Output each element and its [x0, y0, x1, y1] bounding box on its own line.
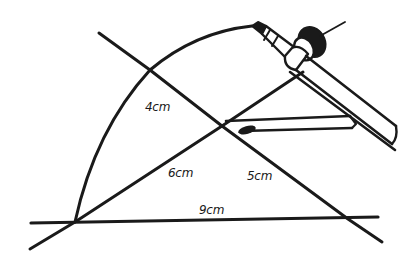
compass-second-arm-top — [226, 116, 350, 121]
label-9cm: 9cm — [199, 203, 224, 217]
diagram-svg — [0, 0, 418, 261]
right-side-line — [99, 33, 382, 242]
label-6cm: 6cm — [168, 166, 193, 180]
label-4cm: 4cm — [145, 100, 170, 114]
label-5cm: 5cm — [247, 169, 272, 183]
compass-second-arm-bottom — [242, 128, 352, 131]
compass-needle-point-icon — [237, 124, 256, 136]
compass-needle — [320, 22, 345, 36]
construction-diagram: 4cm 6cm 5cm 9cm — [0, 0, 418, 261]
